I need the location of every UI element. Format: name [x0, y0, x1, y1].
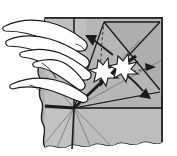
panel-lower-left: [45, 108, 74, 150]
fold-edge-horizontal-left: [45, 106, 74, 108]
origami-figure: [0, 0, 177, 156]
origami-diagram-svg: [0, 0, 177, 156]
